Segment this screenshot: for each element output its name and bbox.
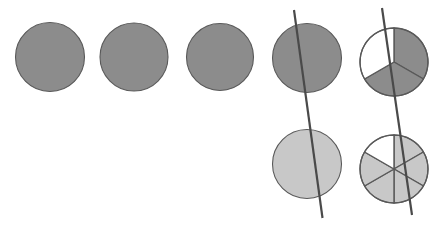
whole-circle-3-disc bbox=[187, 24, 254, 91]
whole-circle-1 bbox=[16, 23, 85, 92]
whole-circle-1-disc bbox=[16, 23, 85, 92]
sixths-circle-bottom bbox=[360, 135, 428, 203]
whole-circle-5-disc bbox=[273, 130, 342, 199]
figure-container bbox=[0, 0, 447, 225]
whole-circle-4 bbox=[273, 24, 342, 93]
fraction-circles-svg bbox=[0, 0, 447, 225]
whole-circle-5 bbox=[273, 130, 342, 199]
whole-circle-2 bbox=[100, 23, 168, 91]
whole-circle-2-disc bbox=[100, 23, 168, 91]
whole-circle-3 bbox=[187, 24, 254, 91]
whole-circle-4-disc bbox=[273, 24, 342, 93]
